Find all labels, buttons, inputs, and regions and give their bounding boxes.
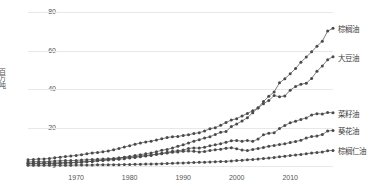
series-marker bbox=[251, 140, 254, 143]
series-marker bbox=[262, 146, 265, 149]
series-marker bbox=[203, 161, 206, 164]
series-marker bbox=[112, 148, 115, 151]
series-marker bbox=[208, 127, 211, 130]
series-marker bbox=[43, 164, 46, 167]
series-marker bbox=[123, 145, 126, 148]
series-marker bbox=[134, 143, 137, 146]
series-marker bbox=[321, 113, 324, 116]
series-marker bbox=[107, 163, 110, 166]
series-marker bbox=[273, 94, 276, 97]
series-marker bbox=[32, 160, 35, 163]
series-marker bbox=[251, 148, 254, 151]
series-marker bbox=[289, 89, 292, 92]
series-marker bbox=[187, 133, 190, 136]
series-marker bbox=[241, 159, 244, 162]
series-label-0: 棕榈油 bbox=[338, 23, 359, 34]
series-marker bbox=[251, 109, 254, 112]
series-marker bbox=[235, 147, 238, 150]
series-marker bbox=[321, 150, 324, 153]
series-marker bbox=[294, 140, 297, 143]
series-layer bbox=[28, 12, 333, 166]
series-marker bbox=[305, 137, 308, 140]
series-marker bbox=[117, 147, 120, 150]
series-marker bbox=[198, 138, 201, 141]
series-marker bbox=[267, 99, 270, 102]
series-marker bbox=[101, 163, 104, 166]
series-marker bbox=[176, 162, 179, 165]
series-marker bbox=[150, 163, 153, 166]
series-marker bbox=[203, 137, 206, 140]
series-marker bbox=[64, 155, 67, 158]
series-marker bbox=[128, 163, 131, 166]
series-marker bbox=[219, 124, 222, 127]
series-marker bbox=[203, 129, 206, 132]
series-marker bbox=[144, 154, 147, 157]
series-marker bbox=[37, 160, 40, 163]
series-label-3: 葵花油 bbox=[338, 125, 359, 136]
series-marker bbox=[241, 114, 244, 117]
series-marker bbox=[144, 163, 147, 166]
series-marker bbox=[128, 156, 131, 159]
series-marker bbox=[267, 95, 270, 98]
series-marker bbox=[294, 67, 297, 70]
series-marker bbox=[224, 141, 227, 144]
x-tick-label-2010: 2010 bbox=[270, 174, 310, 181]
series-marker bbox=[299, 61, 302, 64]
series-marker bbox=[187, 149, 190, 152]
series-marker bbox=[96, 158, 99, 161]
series-marker bbox=[332, 55, 335, 58]
series-marker bbox=[315, 112, 318, 115]
series-marker bbox=[283, 77, 286, 80]
series-marker bbox=[176, 135, 179, 138]
series-marker bbox=[246, 149, 249, 152]
series-marker bbox=[171, 151, 174, 154]
series-marker bbox=[326, 129, 329, 132]
series-marker bbox=[203, 146, 206, 149]
series-marker bbox=[299, 83, 302, 86]
series-marker bbox=[32, 164, 35, 167]
series-line-1 bbox=[28, 57, 333, 160]
series-marker bbox=[182, 134, 185, 137]
y-axis-title: 百万吨 bbox=[0, 68, 6, 89]
series-marker bbox=[107, 149, 110, 152]
series-marker bbox=[48, 164, 51, 167]
series-marker bbox=[305, 82, 308, 85]
series-marker bbox=[155, 162, 158, 165]
series-marker bbox=[37, 164, 40, 167]
series-marker bbox=[27, 160, 30, 163]
series-marker bbox=[326, 149, 329, 152]
plot-area bbox=[28, 12, 333, 166]
series-marker bbox=[267, 157, 270, 160]
gridline-y-0 bbox=[28, 166, 333, 167]
series-marker bbox=[107, 157, 110, 160]
series-marker bbox=[59, 164, 62, 167]
series-marker bbox=[310, 135, 313, 138]
series-marker bbox=[85, 164, 88, 167]
x-tick-label-1990: 1990 bbox=[163, 174, 203, 181]
series-marker bbox=[53, 160, 56, 163]
series-marker bbox=[315, 70, 318, 73]
series-marker bbox=[48, 160, 51, 163]
series-marker bbox=[219, 131, 222, 134]
series-marker bbox=[230, 139, 233, 142]
series-marker bbox=[187, 142, 190, 145]
series-marker bbox=[267, 145, 270, 148]
x-tick-label-1970: 1970 bbox=[56, 174, 96, 181]
series-marker bbox=[214, 143, 217, 146]
series-marker bbox=[267, 132, 270, 135]
series-line-3 bbox=[28, 130, 333, 162]
series-marker bbox=[64, 164, 67, 167]
series-marker bbox=[310, 152, 313, 155]
series-marker bbox=[332, 129, 335, 132]
series-marker bbox=[230, 118, 233, 121]
series-marker bbox=[91, 151, 94, 154]
series-marker bbox=[278, 127, 281, 130]
series-marker bbox=[75, 154, 78, 157]
series-marker bbox=[182, 143, 185, 146]
series-marker bbox=[326, 58, 329, 61]
series-marker bbox=[112, 157, 115, 160]
series-marker bbox=[283, 124, 286, 127]
series-marker bbox=[241, 119, 244, 122]
series-marker bbox=[155, 153, 158, 156]
series-marker bbox=[69, 154, 72, 157]
